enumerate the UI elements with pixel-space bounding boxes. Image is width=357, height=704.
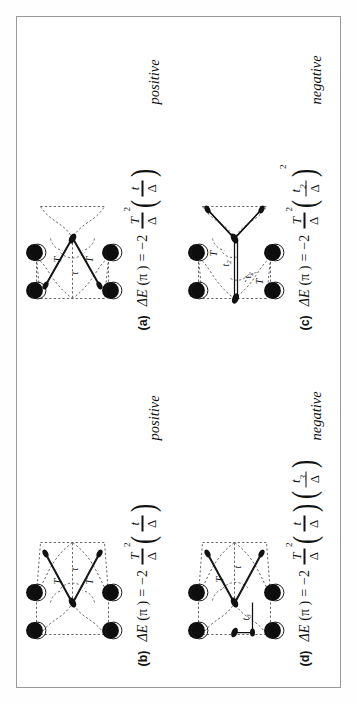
hop-label-T: T — [253, 277, 264, 284]
eq-coefficient: −2 — [134, 570, 150, 585]
prefactor-num: T — [288, 217, 303, 224]
panel-c-sign: negative — [307, 55, 324, 104]
factor-num-sub: 2 — [297, 184, 307, 189]
hop-label-t: t — [232, 565, 242, 568]
prefactor-den: Δ — [305, 213, 319, 227]
factor-fraction: t Δ — [289, 515, 319, 531]
prefactor-den: Δ — [143, 213, 157, 227]
eq-equals: = — [134, 588, 150, 596]
panel-c-equation: ΔE (π ) = −2 T2 Δ — [288, 161, 321, 306]
panel-d-formula: (d) ΔE (π ) = −2 T2 Δ — [276, 456, 332, 666]
prefactor-den: Δ — [143, 548, 157, 562]
prefactor-fraction: T2 Δ — [127, 548, 156, 564]
hop-label-t3: t3 — [240, 613, 252, 620]
hop-label-T: T — [83, 255, 94, 262]
panel-b-diagram: T T t — [20, 504, 124, 654]
hop-label-T: T — [51, 577, 62, 584]
prefactor-num: T — [288, 552, 303, 559]
hop-label-T: T — [83, 577, 94, 584]
factor-num: t — [127, 518, 141, 528]
right-paren: ) — [289, 503, 319, 511]
panel-a-sign: positive — [145, 59, 162, 104]
panel-a: T T t (a) ΔE (π ) = −2 — [16, 16, 178, 352]
panel-c-formula: (c) ΔE (π ) = −2 T2 Δ — [276, 161, 332, 330]
panel-b-formula: (b) ΔE (π ) = −2 T2 Δ — [114, 501, 170, 666]
paren-group: ( t Δ ) — [289, 502, 319, 545]
eq-coefficient: −2 — [296, 234, 312, 249]
hop-label-T: T — [213, 575, 224, 582]
prefactor-fraction: T2 Δ — [289, 548, 318, 564]
prefactor-fraction: T2 Δ — [127, 212, 156, 228]
eq-equals: = — [296, 588, 312, 596]
panel-b: T T t (b) ΔE (π ) = −2 — [16, 352, 178, 688]
rotated-figure-content: T T t (b) ΔE (π ) = −2 — [16, 16, 341, 688]
panel-c-label: (c) — [297, 315, 311, 330]
factor-num: t — [287, 479, 302, 483]
prefactor-den: Δ — [305, 548, 319, 562]
right-paren: ) — [127, 503, 157, 511]
factor-fraction: t2 Δ — [288, 180, 321, 196]
panel-d-equation: ΔE (π ) = −2 T2 Δ — [288, 456, 321, 641]
factor-fraction: t Δ — [127, 515, 157, 531]
eq-lhs: ΔE — [296, 624, 312, 641]
hop-label-t: t — [69, 567, 79, 570]
panel-a-diagram: T T t — [20, 168, 124, 318]
left-paren: ( — [127, 199, 157, 207]
panel-b-label: (b) — [135, 650, 149, 666]
prefactor-num: T — [126, 217, 141, 224]
eq-equals: = — [134, 253, 150, 261]
hop-label-t2: t2 — [220, 259, 232, 266]
paren-group: ( t Δ ) — [127, 167, 157, 210]
panel-a-formula: (a) ΔE (π ) = −2 T2 Δ — [114, 166, 170, 330]
left-paren: ( — [288, 199, 321, 207]
panel-c: T T t2 t2 (c) ΔE (π ) = — [178, 16, 340, 352]
left-paren: ( — [289, 535, 319, 543]
right-paren: ) — [127, 168, 157, 176]
hop-label-t: t — [69, 271, 79, 274]
factor-num: t — [287, 188, 302, 192]
panel-a-label: (a) — [135, 315, 149, 330]
panel-d-label: (d) — [297, 650, 311, 666]
panel-b-sign: positive — [145, 395, 162, 440]
factor-fraction: t3 Δ — [288, 471, 321, 487]
eq-arg: (π ) — [134, 600, 150, 620]
paren-group: ( t3 Δ ) — [288, 457, 321, 500]
panel-d-sign: negative — [307, 391, 324, 440]
factor-den: Δ — [143, 516, 157, 530]
left-paren: ( — [127, 535, 157, 543]
eq-arg: (π ) — [134, 265, 150, 285]
eq-lhs: ΔE — [296, 289, 312, 306]
factor-den: Δ — [143, 181, 157, 195]
prefactor-num: T — [126, 552, 141, 559]
factor-num-sub: 3 — [297, 474, 307, 479]
factor-fraction: t Δ — [127, 180, 157, 196]
panel-c-diagram: T T t2 t2 — [182, 168, 286, 318]
factor-den: Δ — [306, 181, 320, 195]
hop-label-t2: t2 — [242, 271, 254, 278]
eq-lhs: ΔE — [134, 624, 150, 641]
hop-label-T: T — [207, 249, 218, 256]
paren-group: ( t2 Δ ) 2 — [288, 162, 321, 209]
eq-coefficient: −2 — [134, 234, 150, 249]
factor-den: Δ — [305, 516, 319, 530]
left-paren: ( — [288, 490, 321, 498]
figure-frame: T T t (b) ΔE (π ) = −2 — [16, 16, 341, 688]
figure-page: T T t (b) ΔE (π ) = −2 — [0, 0, 357, 704]
eq-arg: (π ) — [296, 265, 312, 285]
prefactor-fraction: T2 Δ — [289, 212, 318, 228]
panel-a-equation: ΔE (π ) = −2 T2 Δ — [127, 166, 157, 306]
eq-lhs: ΔE — [134, 289, 150, 306]
factor-num: t — [289, 518, 303, 528]
eq-coefficient: −2 — [296, 570, 312, 585]
right-paren: ) — [288, 168, 321, 176]
eq-equals: = — [296, 253, 312, 261]
factor-exponent: 2 — [277, 164, 310, 169]
factor-num: t — [127, 183, 141, 193]
paren-group: ( t Δ ) — [127, 502, 157, 545]
right-paren: ) — [288, 459, 321, 467]
panel-d-diagram: T t3 t — [182, 504, 286, 654]
factor-den: Δ — [306, 471, 320, 485]
eq-arg: (π ) — [296, 600, 312, 620]
hop-label-T: T — [51, 255, 62, 262]
panel-b-equation: ΔE (π ) = −2 T2 Δ — [127, 501, 157, 641]
